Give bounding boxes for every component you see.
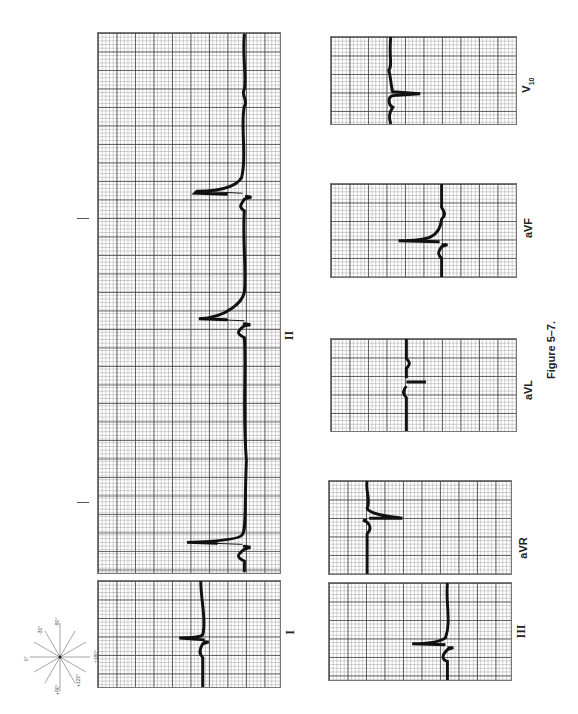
lead-avl-trace — [331, 339, 516, 431]
lead-v10-label-sub: 10 — [528, 78, 535, 86]
lead-ii-strip — [97, 32, 281, 574]
lead-avl-label: aVL — [522, 380, 534, 400]
hexaxial-diagram-icon: -90° +90° 0° ±180° -30° +120° — [20, 612, 100, 702]
angle-label: -90° — [54, 618, 60, 627]
lead-i-strip — [97, 580, 281, 688]
lead-v10-trace — [331, 37, 516, 124]
angle-label: +90° — [54, 685, 60, 695]
lead-avf-trace — [331, 184, 516, 277]
lead-v10-label-main: V — [520, 85, 532, 92]
figure-caption: Figure 5–7. — [545, 321, 557, 379]
lead-avr-label: aVR — [517, 537, 529, 558]
angle-label: ±180° — [93, 650, 99, 663]
lead-iii-label: III — [514, 624, 529, 638]
angle-label: +120° — [75, 674, 81, 687]
lead-avf-label: aVF — [522, 218, 534, 238]
calibration-tick-bottom — [77, 502, 89, 503]
angle-label: 0° — [23, 656, 29, 661]
lead-ii-trace — [98, 33, 280, 573]
lead-ii-label: II — [282, 331, 297, 340]
lead-avr-strip — [328, 480, 512, 575]
lead-i-trace — [98, 581, 280, 687]
lead-avr-trace — [329, 481, 511, 574]
lead-avf-strip — [330, 183, 517, 278]
lead-iii-strip — [328, 582, 512, 681]
lead-avl-strip — [330, 338, 517, 432]
lead-iii-trace — [329, 583, 511, 680]
lead-i-label: I — [283, 630, 298, 635]
calibration-tick-top — [77, 218, 89, 219]
lead-v10-strip — [330, 36, 517, 125]
angle-label: -30° — [37, 626, 43, 635]
lead-v10-label: V10 — [520, 78, 534, 93]
